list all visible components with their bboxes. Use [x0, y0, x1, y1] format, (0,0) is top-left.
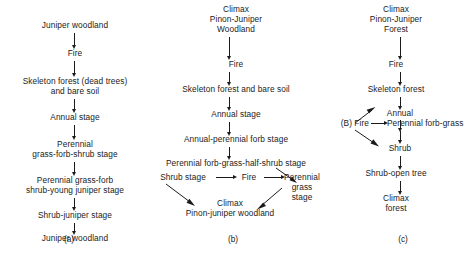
arrow-a4-to-a5: [74, 125, 75, 137]
node-c6-perennial-forb-grass: Perennial forb-grass: [387, 118, 470, 128]
panel-a: Juniper woodland Fire Skeleton forest (d…: [0, 0, 150, 256]
node-c1-climax-pinon-juniper-forest: Climax Pinon-Juniper Forest: [322, 4, 470, 35]
node-b5-annual-perennial-forb-stage: Annual-perennial forb stage: [152, 134, 320, 144]
node-a6-perennial-grass-forb-shrub-young-juniper: Perennial grass-forb shrub-young juniper…: [0, 175, 150, 195]
node-a4-annual-stage: Annual stage: [0, 112, 150, 122]
node-a6-line1: Perennial grass-forb: [37, 175, 113, 185]
arrow-a7-to-a8: [74, 223, 75, 232]
node-b1-climax-pinon-juniper-woodland: Climax Pinon-Juniper Woodland: [152, 4, 320, 35]
node-b9-line1: Perennial: [284, 172, 320, 182]
arrow-c7-to-c8: [400, 156, 401, 167]
arrow-a6-to-a7: [74, 198, 75, 208]
node-b7-shrub-stage: Shrub stage: [152, 172, 214, 182]
arrow-b1-to-b2: [229, 37, 230, 57]
arrow-c2-to-c3: [400, 72, 401, 83]
node-a7-shrub-juniper-stage: Shrub-juniper stage: [0, 210, 150, 220]
arrow-a1-to-a2: [74, 33, 75, 46]
arrow-c6-to-c7: [400, 131, 401, 141]
node-b9-line2: grass stage: [292, 182, 313, 202]
node-a1-juniper-woodland: Juniper woodland: [0, 20, 150, 30]
panel-label-b: (b): [212, 234, 254, 244]
node-a2-fire: Fire: [0, 48, 150, 58]
arrow-b5-to-b6: [229, 147, 230, 157]
panel-c: Climax Pinon-Juniper Forest Fire Skeleto…: [322, 0, 470, 256]
node-c1-line1: Climax: [383, 4, 409, 14]
arrow-b4-to-b5: [229, 122, 230, 133]
node-b2-fire: Fire: [152, 59, 320, 69]
node-c7-shrub: Shrub: [370, 143, 430, 153]
panel-label-a: (a): [48, 234, 90, 244]
node-c9-line1: Climax: [383, 193, 409, 203]
node-b10-line1: Climax: [217, 198, 243, 208]
node-c9-climax-forest: Climax forest: [322, 193, 470, 213]
arrow-c3-to-c4: [400, 97, 401, 107]
node-c4-annual: Annual: [370, 108, 430, 118]
node-b1-line3: Woodland: [217, 24, 255, 34]
node-b3-skeleton-forest-bare-soil: Skeleton forest and bare soil: [152, 84, 320, 94]
node-c8-shrub-open-tree: Shrub-open tree: [322, 168, 470, 178]
arrow-c1-to-c2: [400, 37, 401, 57]
node-b4-annual-stage: Annual stage: [152, 109, 320, 119]
arrow-a3-to-a4: [74, 99, 75, 110]
node-a3-line1: Skeleton forest (dead trees): [23, 76, 128, 86]
succession-diagram-figure: Juniper woodland Fire Skeleton forest (d…: [0, 0, 470, 256]
arrow-a2-to-a3: [74, 61, 75, 74]
node-a3-skeleton-forest: Skeleton forest (dead trees) and bare so…: [0, 76, 150, 96]
node-a6-line2: shrub-young juniper stage: [26, 185, 124, 195]
node-b10-line2: Pinon-juniper woodland: [186, 208, 275, 218]
node-c2-fire: Fire: [322, 59, 470, 69]
node-b10-climax-pinon-juniper-woodland: Climax Pinon-juniper woodland: [170, 198, 290, 218]
arrow-c5-to-c6: [371, 123, 385, 124]
node-c9-line2: forest: [385, 203, 406, 213]
node-c1-line2: Pinon-Juniper: [370, 14, 422, 24]
node-a5-line2: grass-forb-shrub stage: [32, 149, 117, 159]
arrow-b7-to-b8: [216, 177, 234, 178]
node-c1-line3: Forest: [384, 24, 408, 34]
node-b1-line2: Pinon-Juniper: [210, 14, 262, 24]
arrow-b8-to-b9: [264, 177, 282, 178]
panel-b: Climax Pinon-Juniper Woodland Fire Skele…: [152, 0, 320, 256]
node-a3-line2: and bare soil: [51, 86, 100, 96]
node-b6-perennial-forb-grass-half-shrub-stage: Perennial forb-grass-half-shrub stage: [152, 158, 320, 168]
node-a5-perennial-grass-forb-shrub: Perennial grass-forb-shrub stage: [0, 139, 150, 159]
node-c5-b-fire: (B) Fire: [322, 118, 369, 128]
arrow-b2-to-b3: [229, 72, 230, 83]
node-b8-fire: Fire: [236, 172, 262, 182]
panel-label-c: (c): [382, 234, 424, 244]
node-c3-skeleton-forest: Skeleton forest: [322, 84, 470, 94]
arrow-b3-to-b4: [229, 97, 230, 108]
arrow-c8-to-c9: [400, 181, 401, 192]
node-a5-line1: Perennial: [57, 139, 93, 149]
node-b1-line1: Climax: [223, 4, 249, 14]
arrow-a5-to-a6: [74, 162, 75, 173]
